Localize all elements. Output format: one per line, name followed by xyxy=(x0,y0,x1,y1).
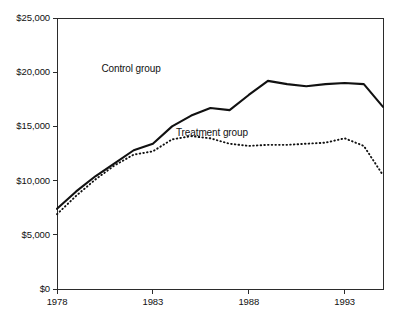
data-series-group xyxy=(57,81,383,214)
x-axis-ticks xyxy=(57,289,345,294)
y-axis-tick-label: $10,000 xyxy=(16,176,50,186)
series-line-control-group xyxy=(57,81,383,209)
series-label-treatment-group: Treatment group xyxy=(176,127,248,138)
y-axis-tick-label: $5,000 xyxy=(22,230,50,240)
x-axis-tick-label: 1993 xyxy=(320,297,370,307)
y-axis-tick-label: $25,000 xyxy=(16,13,50,23)
y-axis-ticks xyxy=(53,18,57,289)
x-axis-tick-label: 1978 xyxy=(32,297,82,307)
series-label-control-group: Control group xyxy=(101,63,160,74)
x-axis-tick-label: 1983 xyxy=(128,297,178,307)
chart-plot-svg xyxy=(0,0,398,317)
y-axis-tick-label: $20,000 xyxy=(16,67,50,77)
y-axis-tick-label: $15,000 xyxy=(16,121,50,131)
x-axis-tick-label: 1988 xyxy=(224,297,274,307)
y-axis-tick-label: $0 xyxy=(40,284,50,294)
chart-container: $25,000$20,000$15,000$10,000$5,000$0 197… xyxy=(0,0,398,317)
series-line-treatment-group xyxy=(57,136,383,214)
axis-frame xyxy=(57,18,383,289)
